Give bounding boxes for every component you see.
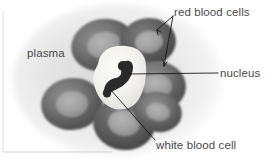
label-white-blood-cell: white blood cell (156, 139, 236, 152)
label-red-blood-cells: red blood cells (174, 6, 250, 19)
label-plasma: plasma (27, 47, 65, 60)
label-nucleus: nucleus (220, 67, 260, 80)
figure-container: red blood cells nucleus white blood cell… (0, 0, 272, 162)
blood-cells-illustration (0, 0, 272, 162)
